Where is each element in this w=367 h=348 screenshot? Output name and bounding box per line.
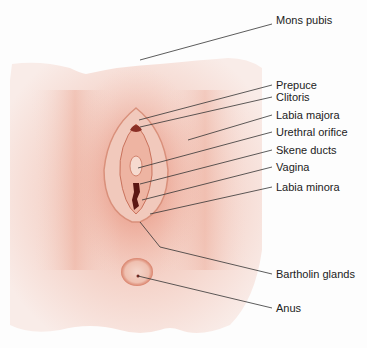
label-skene-ducts: Skene ducts — [276, 144, 337, 156]
anus-shape — [121, 258, 153, 286]
illustration — [0, 0, 367, 348]
label-bartholin-glands: Bartholin glands — [276, 268, 355, 280]
label-mons-pubis: Mons pubis — [276, 14, 332, 26]
label-vagina: Vagina — [276, 161, 309, 173]
label-anus: Anus — [276, 302, 301, 314]
label-clitoris: Clitoris — [276, 91, 310, 103]
label-labia-majora: Labia majora — [276, 109, 340, 121]
label-urethral-orifice: Urethral orifice — [276, 126, 348, 138]
anatomy-diagram: Mons pubis Prepuce Clitoris Labia majora… — [0, 0, 367, 348]
label-prepuce: Prepuce — [276, 79, 317, 91]
label-labia-minora: Labia minora — [276, 181, 340, 193]
urethral-orifice-shape — [130, 156, 142, 176]
